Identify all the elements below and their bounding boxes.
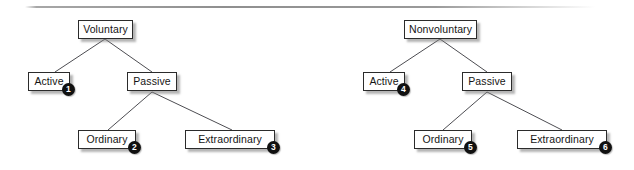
node-extraordinary-2[interactable]: Extraordinary 6 bbox=[517, 130, 607, 149]
badge-1: 1 bbox=[62, 83, 75, 96]
node-active-2[interactable]: Active 4 bbox=[363, 72, 405, 91]
node-extraordinary-1-label: Extraordinary bbox=[193, 134, 267, 145]
node-passive-2-label: Passive bbox=[463, 76, 510, 87]
node-active-1[interactable]: Active 1 bbox=[28, 72, 70, 91]
top-divider-rule bbox=[25, 6, 595, 8]
edge-nonvoluntary-passive bbox=[440, 39, 487, 72]
badge-6: 6 bbox=[599, 141, 612, 154]
node-passive-2[interactable]: Passive bbox=[462, 72, 512, 91]
node-passive-1-label: Passive bbox=[128, 76, 175, 87]
node-voluntary-label: Voluntary bbox=[78, 24, 133, 35]
node-ordinary-2-label: Ordinary bbox=[417, 134, 468, 145]
node-extraordinary-2-label: Extraordinary bbox=[525, 134, 599, 145]
edge-voluntary-active bbox=[55, 39, 105, 72]
edge-passive-ordinary bbox=[108, 92, 152, 130]
node-nonvoluntary[interactable]: Nonvoluntary bbox=[404, 20, 477, 39]
badge-4: 4 bbox=[397, 83, 410, 96]
node-ordinary-1-label: Ordinary bbox=[81, 134, 132, 145]
badge-2: 2 bbox=[128, 141, 141, 154]
node-ordinary-1[interactable]: Ordinary 2 bbox=[78, 130, 136, 149]
node-extraordinary-1[interactable]: Extraordinary 3 bbox=[185, 130, 275, 149]
node-nonvoluntary-label: Nonvoluntary bbox=[404, 24, 477, 35]
edge-passive-extraordinary-2 bbox=[487, 92, 562, 130]
edge-passive-extraordinary bbox=[152, 92, 232, 130]
badge-3: 3 bbox=[267, 141, 280, 154]
edge-passive-ordinary-2 bbox=[443, 92, 487, 130]
badge-5: 5 bbox=[464, 141, 477, 154]
node-voluntary[interactable]: Voluntary bbox=[78, 20, 133, 39]
node-ordinary-2[interactable]: Ordinary 5 bbox=[414, 130, 472, 149]
tree-diagram-figure: Voluntary Active 1 Passive Ordinary 2 Ex… bbox=[0, 0, 634, 170]
edge-voluntary-passive bbox=[105, 39, 152, 72]
node-passive-1[interactable]: Passive bbox=[127, 72, 177, 91]
edge-nonvoluntary-active bbox=[390, 39, 440, 72]
